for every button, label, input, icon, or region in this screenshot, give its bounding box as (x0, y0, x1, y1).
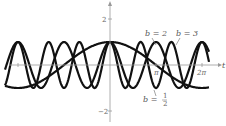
y-axis-arrow (108, 1, 112, 6)
series-label-bhalf-den: 2 (163, 100, 167, 108)
cosine-chart: π2π2−2 t b = 2 b = 3 b = 1 2 (0, 0, 226, 126)
x-tick-label: 2π (196, 69, 206, 77)
x-axis-label: t (222, 61, 226, 70)
y-tick-label: 2 (102, 16, 106, 24)
y-tick-label: −2 (98, 108, 108, 116)
x-tick-label: π (153, 69, 159, 77)
series-label-b2: b = 2 (145, 29, 167, 38)
series-label-b3: b = 3 (176, 29, 198, 38)
series-leader-b3 (176, 38, 180, 45)
series-label-bhalf: b = (143, 95, 157, 104)
series-label-bhalf-num: 1 (163, 92, 167, 100)
